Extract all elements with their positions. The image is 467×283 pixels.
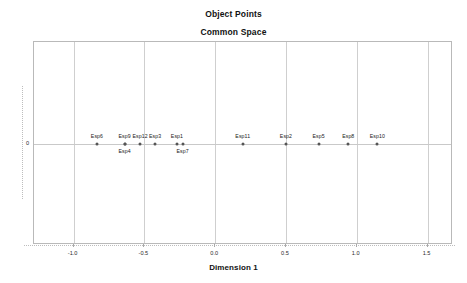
gridline-vertical — [215, 42, 216, 243]
x-tick-label: 0.0 — [210, 250, 218, 256]
x-tick-label: 1.5 — [423, 250, 431, 256]
x-tick-mark — [356, 244, 357, 247]
x-tick-mark — [427, 244, 428, 247]
data-point — [95, 142, 98, 145]
data-point — [175, 142, 178, 145]
data-point — [139, 142, 142, 145]
x-tick-label: 1.0 — [352, 250, 360, 256]
data-point — [284, 142, 287, 145]
data-point-label: Esp1 — [171, 133, 183, 139]
data-point — [241, 142, 244, 145]
data-point-label: Esp7 — [177, 148, 189, 154]
gridline-vertical — [74, 42, 75, 243]
x-tick-mark — [285, 244, 286, 247]
chart-title: Object Points — [0, 8, 467, 20]
data-point — [123, 142, 126, 145]
data-point-label: Esp10 — [370, 133, 385, 139]
chart-figure: Object Points Common Space Esp6Esp9Esp4E… — [0, 0, 467, 283]
x-tick-mark — [143, 244, 144, 247]
gridline-vertical — [428, 42, 429, 243]
x-tick-label: -0.5 — [139, 250, 149, 256]
x-tick-label: -1.0 — [68, 250, 78, 256]
data-point-label: Esp8 — [342, 133, 354, 139]
data-point — [181, 142, 184, 145]
data-point — [154, 142, 157, 145]
data-point — [376, 142, 379, 145]
data-point — [317, 142, 320, 145]
x-tick-mark — [73, 244, 74, 247]
x-axis-title: Dimension 1 — [0, 263, 467, 272]
x-tick-label: 0.5 — [281, 250, 289, 256]
gridline-vertical — [357, 42, 358, 243]
chart-subtitle: Common Space — [0, 26, 467, 38]
x-axis-dotted-line — [24, 245, 455, 247]
data-point-label: Esp4 — [118, 148, 130, 154]
data-point-label: Esp9 — [118, 133, 130, 139]
data-point-label: Esp5 — [312, 133, 324, 139]
data-point — [347, 142, 350, 145]
data-point-label: Esp11 — [235, 133, 250, 139]
x-tick-mark — [214, 244, 215, 247]
data-point-label: Esp3 — [149, 133, 161, 139]
data-point-label: Esp6 — [91, 133, 103, 139]
plot-area: Esp6Esp9Esp4Esp12Esp3Esp1Esp7Esp11Esp2Es… — [33, 41, 452, 244]
gridline-vertical — [144, 42, 145, 243]
data-point-label: Esp12 — [133, 133, 148, 139]
data-point-label: Esp2 — [280, 133, 292, 139]
y-tick-label: 0 — [18, 140, 29, 146]
title-block: Object Points Common Space — [0, 8, 467, 38]
